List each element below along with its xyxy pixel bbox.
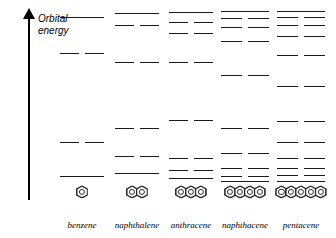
energy-level-line [140, 62, 159, 63]
energy-level-line [140, 128, 159, 129]
molecule-structure-naphthalene [110, 182, 164, 202]
energy-level-line [85, 53, 104, 54]
energy-level-line [169, 178, 213, 179]
energy-level-line [221, 27, 242, 28]
energy-level-line [115, 128, 134, 129]
energy-level-line [169, 170, 188, 171]
energy-level-line [221, 168, 242, 169]
molecule-column-anthracene: anthracene [164, 0, 218, 238]
energy-level-line [221, 41, 242, 42]
energy-levels [164, 0, 218, 190]
energy-axis [22, 8, 36, 200]
energy-level-line [277, 11, 325, 12]
energy-level-line [140, 25, 159, 26]
energy-level-line [115, 156, 134, 157]
energy-level-line [248, 27, 269, 28]
energy-level-line [169, 62, 188, 63]
molecule-column-naphthalene: naphthalene [110, 0, 164, 238]
molecule-label-anthracene: anthracene [164, 220, 218, 230]
energy-level-line [304, 158, 325, 159]
energy-level-line [140, 156, 159, 157]
energy-level-line [304, 25, 325, 26]
axis-line [28, 16, 30, 200]
benzene-ring-icon [194, 185, 207, 200]
orbital-energy-diagram: Orbital energy benzenenaphthaleneanthrac… [0, 0, 336, 238]
benzene-ring-icon [135, 185, 148, 200]
energy-level-line [115, 173, 159, 174]
molecule-column-naphthacene: naphthacene [216, 0, 274, 238]
energy-level-line [194, 158, 213, 159]
energy-level-line [60, 176, 104, 177]
energy-level-line [60, 142, 79, 143]
energy-level-line [277, 142, 298, 143]
energy-level-line [169, 120, 188, 121]
energy-level-line [248, 75, 269, 76]
molecule-label-naphthacene: naphthacene [216, 220, 274, 230]
molecule-label-benzene: benzene [56, 220, 108, 230]
molecule-label-naphthalene: naphthalene [110, 220, 164, 230]
energy-level-line [304, 17, 325, 18]
molecule-structure-pentacene [272, 182, 330, 202]
energy-level-line [277, 158, 298, 159]
energy-levels [110, 0, 164, 190]
energy-level-line [221, 153, 242, 154]
energy-level-line [194, 62, 213, 63]
molecule-column-pentacene: pentacene [272, 0, 330, 238]
energy-level-line [221, 11, 269, 12]
energy-levels [216, 0, 274, 190]
energy-level-line [115, 62, 134, 63]
energy-level-line [115, 13, 159, 14]
energy-level-line [304, 55, 325, 56]
energy-level-line [304, 36, 325, 37]
energy-level-line [169, 12, 213, 13]
energy-level-line [248, 176, 269, 177]
molecule-column-benzene: benzene [56, 0, 108, 238]
energy-level-line [194, 33, 213, 34]
energy-level-line [277, 55, 298, 56]
energy-level-line [221, 128, 242, 129]
energy-level-line [248, 41, 269, 42]
molecule-structure-anthracene [164, 182, 218, 202]
energy-level-line [221, 18, 242, 19]
energy-levels [272, 0, 330, 190]
energy-level-line [194, 22, 213, 23]
energy-level-line [277, 17, 298, 18]
energy-level-line [169, 158, 188, 159]
energy-level-line [115, 25, 134, 26]
energy-level-line [277, 168, 298, 169]
benzene-ring-icon [314, 185, 327, 200]
energy-level-line [304, 175, 325, 176]
energy-level-line [169, 33, 188, 34]
energy-level-line [194, 120, 213, 121]
molecule-structure-benzene [56, 182, 108, 202]
energy-level-line [60, 53, 79, 54]
energy-level-line [194, 170, 213, 171]
energy-level-line [248, 128, 269, 129]
energy-level-line [221, 75, 242, 76]
energy-level-line [60, 17, 104, 18]
energy-level-line [169, 22, 188, 23]
energy-level-line [248, 153, 269, 154]
benzene-ring-icon [253, 185, 266, 200]
energy-level-line [248, 168, 269, 169]
energy-level-line [221, 176, 242, 177]
energy-level-line [85, 142, 104, 143]
energy-level-line [304, 142, 325, 143]
energy-level-line [277, 36, 298, 37]
energy-level-line [277, 86, 298, 87]
energy-level-line [304, 168, 325, 169]
benzene-ring-icon [76, 185, 89, 200]
energy-level-line [304, 86, 325, 87]
energy-level-line [304, 121, 325, 122]
energy-level-line [248, 18, 269, 19]
energy-levels [56, 0, 108, 190]
energy-level-line [277, 175, 298, 176]
molecule-label-pentacene: pentacene [272, 220, 330, 230]
energy-level-line [277, 121, 298, 122]
energy-level-line [277, 25, 298, 26]
molecule-structure-naphthacene [216, 182, 274, 202]
